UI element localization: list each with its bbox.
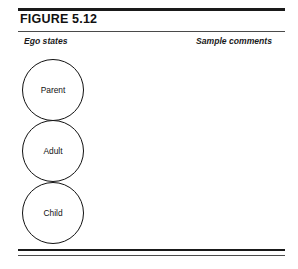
ego-state-stack: Parent Adult Child bbox=[22, 59, 86, 243]
rule-bottom-thin bbox=[18, 255, 285, 256]
ego-state-circle-parent: Parent bbox=[22, 59, 84, 121]
figure-title: FIGURE 5.12 bbox=[20, 11, 97, 28]
ego-state-label: Adult bbox=[43, 146, 62, 156]
ego-state-circle-adult: Adult bbox=[22, 120, 84, 182]
ego-state-label: Parent bbox=[41, 85, 66, 95]
figure-container: FIGURE 5.12 Ego states Sample comments P… bbox=[0, 0, 298, 269]
diagram-area: Parent Adult Child bbox=[0, 50, 298, 246]
column-caption-ego-states: Ego states bbox=[24, 36, 67, 47]
column-caption-sample-comments: Sample comments bbox=[196, 36, 272, 47]
rule-bottom-thick bbox=[18, 249, 285, 251]
ego-state-label: Child bbox=[43, 208, 62, 218]
sample-comments-column bbox=[100, 50, 285, 246]
ego-state-circle-child: Child bbox=[22, 182, 84, 244]
rule-under-title bbox=[18, 31, 285, 32]
